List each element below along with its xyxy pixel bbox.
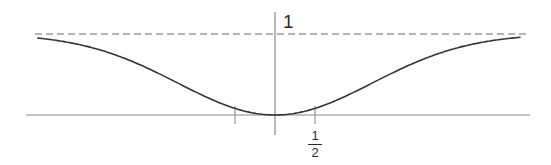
fraction-denominator: 2 xyxy=(308,146,322,160)
function-plot xyxy=(0,0,551,165)
fraction-numerator: 1 xyxy=(308,129,322,143)
asymptote-label: 1 xyxy=(283,12,294,31)
tick-label-one-half: 1 2 xyxy=(308,129,322,160)
bell-dip-curve xyxy=(38,37,520,115)
